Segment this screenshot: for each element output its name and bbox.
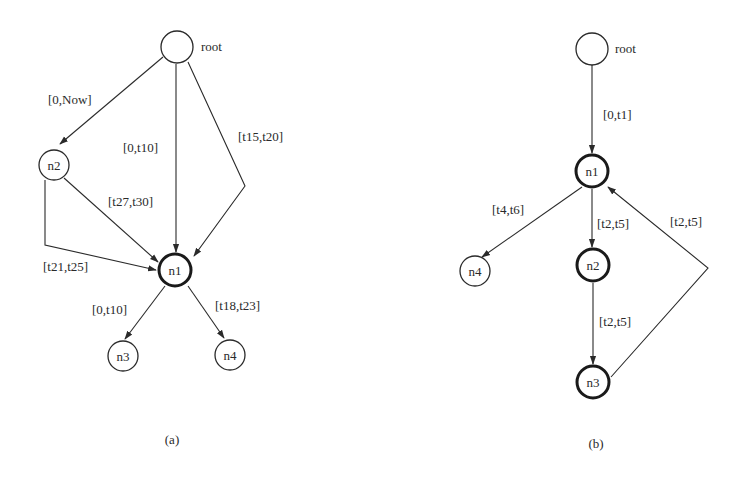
- diagram-a: root n2 n1 n3 n4 [0,Now] [0,t10] [t15,t2…: [39, 31, 283, 447]
- node-a-n4-label: n4: [224, 348, 238, 363]
- node-b-root-label: root: [615, 41, 636, 56]
- node-b-root: [576, 33, 608, 65]
- node-a-n1-label: n1: [169, 263, 182, 278]
- node-a-root-label: root: [201, 39, 222, 54]
- edge-label-a-root-n2: [0,Now]: [48, 92, 92, 107]
- caption-a: (a): [165, 432, 179, 447]
- edge-label-a-n1-n3: [0,t10]: [92, 302, 127, 317]
- edge-label-a-root-n1-routed: [t15,t20]: [238, 129, 283, 144]
- edge-b-n1-n4: [482, 187, 582, 257]
- edge-a-root-n1-routed: [188, 62, 245, 256]
- node-a-n2-label: n2: [48, 158, 61, 173]
- edge-a-n2-n1-direct: [64, 178, 158, 262]
- edge-label-a-n2-n1-direct: [t27,t30]: [108, 194, 153, 209]
- node-b-n4-label: n4: [469, 264, 483, 279]
- node-a-n3-label: n3: [117, 349, 130, 364]
- edge-a-n1-n3: [125, 286, 165, 339]
- edge-label-b-root-n1: [0,t1]: [603, 107, 632, 122]
- temporal-graph-figure: root n2 n1 n3 n4 [0,Now] [0,t10] [t15,t2…: [0, 0, 747, 480]
- edge-label-a-n1-n4: [t18,t23]: [215, 298, 260, 313]
- node-b-n1-label: n1: [586, 164, 599, 179]
- node-b-n2-label: n2: [587, 258, 600, 273]
- edge-label-b-n2-n3: [t2,t5]: [599, 314, 631, 329]
- caption-b: (b): [588, 436, 603, 451]
- node-b-n3-label: n3: [587, 375, 600, 390]
- edge-label-a-n2-n1-routed: [t21,t25]: [43, 259, 88, 274]
- edge-label-b-n1-n4: [t4,t6]: [492, 202, 524, 217]
- diagram-b: root n1 n4 n2 n3 [0,t1] [t4,t6] [t2,t5] …: [460, 33, 708, 451]
- node-a-root: [161, 31, 193, 63]
- edge-label-a-root-n1-direct: [0,t10]: [123, 140, 158, 155]
- edge-label-b-n1-n2: [t2,t5]: [597, 216, 629, 231]
- edge-label-b-n3-n1-routed: [t2,t5]: [670, 214, 702, 229]
